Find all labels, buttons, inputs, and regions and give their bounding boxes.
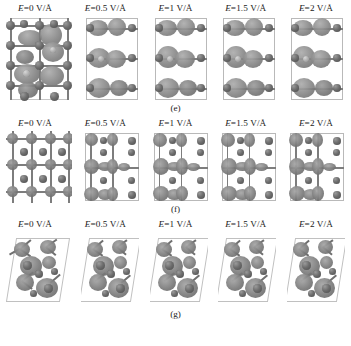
charge-isosurface bbox=[26, 159, 37, 170]
atom bbox=[333, 177, 340, 184]
atom bbox=[35, 270, 43, 278]
atom bbox=[30, 290, 37, 297]
panel-e-cell-1 bbox=[84, 16, 140, 102]
panel-e-cell-0 bbox=[6, 16, 72, 102]
panel-e-col-label-1: E=0.5 V/Å bbox=[70, 0, 140, 16]
charge-isosurface bbox=[26, 186, 37, 197]
charge-isosurface bbox=[176, 133, 187, 147]
charge-isosurface bbox=[244, 133, 255, 147]
panel-f-col-label-2: E=1 V/Å bbox=[140, 115, 210, 131]
charge-isosurface bbox=[315, 80, 333, 96]
charge-isosurface bbox=[244, 158, 256, 175]
atom bbox=[333, 24, 341, 32]
charge-isosurface bbox=[16, 274, 34, 291]
charge-isosurface bbox=[247, 80, 265, 96]
panel-e-image-row bbox=[0, 16, 351, 102]
panel-g-cell-2 bbox=[150, 232, 208, 308]
atom bbox=[333, 191, 341, 199]
charge-isosurface bbox=[158, 274, 176, 291]
charge-isosurface bbox=[313, 18, 331, 36]
atom bbox=[171, 290, 178, 297]
atom bbox=[176, 270, 184, 278]
charge-isosurface bbox=[16, 50, 34, 64]
panel-f-cell-3 bbox=[221, 131, 277, 203]
panel-f-label-row: E=0 V/Å E=0.5 V/Å E=1 V/Å E=1.5 V/Å E=2 … bbox=[0, 115, 351, 131]
atom bbox=[23, 70, 30, 77]
atom bbox=[197, 191, 205, 199]
charge-isosurface bbox=[176, 186, 188, 201]
charge-isosurface bbox=[311, 50, 331, 68]
charge-isosurface bbox=[114, 256, 127, 269]
atom bbox=[197, 149, 204, 156]
atom bbox=[58, 175, 66, 183]
atom bbox=[123, 268, 130, 275]
panel-f-col-label-3: E=1.5 V/Å bbox=[211, 115, 281, 131]
atom bbox=[223, 84, 231, 92]
atom bbox=[155, 54, 163, 62]
atom bbox=[265, 149, 272, 156]
charge-isosurface bbox=[293, 242, 309, 257]
atom bbox=[155, 24, 163, 32]
atom bbox=[50, 92, 59, 101]
atom bbox=[116, 284, 125, 293]
panel-e: E=0 V/Å E=0.5 V/Å E=1 V/Å E=1.5 V/Å E=2 … bbox=[0, 0, 351, 115]
charge-isosurface bbox=[26, 133, 37, 144]
atom bbox=[333, 149, 340, 156]
atom bbox=[63, 21, 72, 30]
atom bbox=[197, 84, 205, 92]
panel-g-caption: (g) bbox=[0, 308, 351, 321]
atom bbox=[165, 261, 174, 270]
panel-g-label-row: E=0 V/Å E=0.5 V/Å E=1 V/Å E=1.5 V/Å E=2 … bbox=[0, 216, 351, 232]
panel-g-col-label-2: E=1 V/Å bbox=[140, 216, 210, 232]
atom bbox=[102, 290, 109, 297]
atom bbox=[50, 47, 56, 53]
atom bbox=[107, 270, 115, 278]
charge-isosurface bbox=[89, 274, 107, 291]
atom bbox=[237, 177, 244, 184]
panel-g-cell-1 bbox=[81, 232, 139, 308]
panel-e-col-label-0: E=0 V/Å bbox=[0, 0, 70, 16]
atom bbox=[197, 54, 205, 62]
atom bbox=[333, 54, 341, 62]
atom bbox=[237, 149, 244, 156]
atom bbox=[185, 284, 194, 293]
panel-g-cell-3 bbox=[218, 232, 276, 308]
panel-e-cell-4 bbox=[289, 16, 345, 102]
charge-isosurface bbox=[175, 50, 195, 68]
atom bbox=[35, 21, 44, 30]
charge-isosurface bbox=[179, 80, 197, 96]
charge-isosurface bbox=[255, 163, 268, 171]
atom bbox=[20, 148, 28, 156]
atom bbox=[58, 148, 66, 156]
atom bbox=[63, 81, 72, 90]
atom bbox=[265, 54, 273, 62]
charge-isosurface bbox=[323, 163, 336, 171]
atom bbox=[6, 61, 15, 70]
charge-isosurface bbox=[63, 159, 72, 170]
atom bbox=[305, 149, 312, 156]
charge-isosurface bbox=[295, 274, 313, 291]
panel-g-cell-4 bbox=[287, 232, 345, 308]
atom bbox=[6, 41, 15, 50]
panel-f: E=0 V/Å E=0.5 V/Å E=1 V/Å E=1.5 V/Å E=2 … bbox=[0, 115, 351, 216]
panel-e-caption: (e) bbox=[0, 102, 351, 115]
atom bbox=[329, 268, 336, 275]
atom bbox=[291, 84, 299, 92]
atom bbox=[333, 137, 341, 145]
charge-isosurface bbox=[245, 18, 263, 36]
charge-isosurface bbox=[177, 18, 195, 36]
atom bbox=[265, 137, 273, 145]
charge-isosurface bbox=[63, 133, 72, 144]
panel-f-cell-4 bbox=[289, 131, 345, 203]
atom bbox=[237, 137, 244, 144]
atom bbox=[322, 284, 331, 293]
panel-g-col-label-1: E=0.5 V/Å bbox=[70, 216, 140, 232]
charge-isosurface bbox=[153, 133, 167, 147]
atom bbox=[305, 137, 312, 144]
atom bbox=[63, 41, 72, 50]
charge-isosurface bbox=[289, 133, 303, 147]
panel-f-image-row bbox=[0, 131, 351, 203]
atom bbox=[35, 81, 44, 90]
charge-isosurface bbox=[7, 186, 18, 197]
figure-root: E=0 V/Å E=0.5 V/Å E=1 V/Å E=1.5 V/Å E=2 … bbox=[0, 0, 351, 346]
